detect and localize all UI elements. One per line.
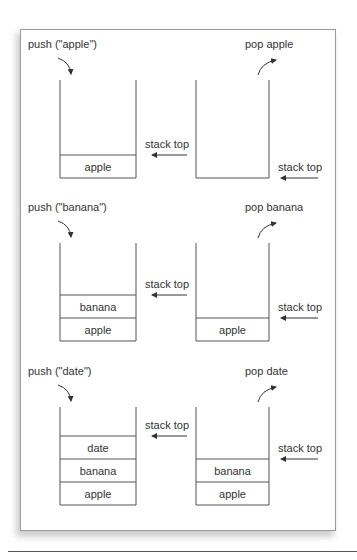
push-stack-item: apple (85, 324, 112, 336)
push-arrow-icon (58, 58, 71, 74)
pop-stack-item: apple (219, 488, 246, 500)
push-arrow-icon (58, 385, 71, 401)
stack-top-label: stack top (145, 278, 189, 290)
stack-diagram: push ("apple")applestack toppop applesta… (0, 0, 357, 560)
push-stack-item: date (87, 442, 108, 454)
push-label: push ("date") (28, 365, 91, 377)
stack-top-label: stack top (278, 442, 322, 454)
push-stack-item: banana (80, 301, 118, 313)
pop-label: pop date (245, 365, 288, 377)
stack-top-label: stack top (278, 161, 322, 173)
pop-arrow-icon (258, 387, 276, 402)
push-stack-item: apple (85, 161, 112, 173)
pop-label: pop banana (245, 201, 304, 213)
stack-top-label: stack top (145, 419, 189, 431)
stack-top-label: stack top (278, 301, 322, 313)
pop-stack-item: banana (214, 465, 252, 477)
pop-stack-container (196, 80, 269, 178)
push-label: push ("apple") (28, 38, 97, 50)
push-stack-item: banana (80, 465, 118, 477)
pop-arrow-icon (258, 60, 276, 75)
stack-top-label: stack top (145, 138, 189, 150)
pop-label: pop apple (245, 38, 293, 50)
push-stack-item: apple (85, 488, 112, 500)
push-arrow-icon (58, 221, 71, 237)
push-label: push ("banana") (28, 201, 107, 213)
pop-arrow-icon (258, 223, 276, 238)
pop-stack-item: apple (219, 324, 246, 336)
